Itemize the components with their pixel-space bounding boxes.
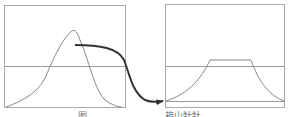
right-panel	[166, 5, 285, 108]
right-panel-caption: 箱山牡牡	[165, 111, 201, 117]
left-panel	[5, 6, 126, 108]
left-panel-frame	[5, 6, 126, 108]
transform-arrow	[75, 45, 163, 102]
right-panel-frame	[166, 5, 285, 108]
diagram-canvas	[0, 0, 289, 117]
left-panel-caption: 图	[78, 111, 87, 117]
left-peak-curve	[6, 30, 122, 107]
